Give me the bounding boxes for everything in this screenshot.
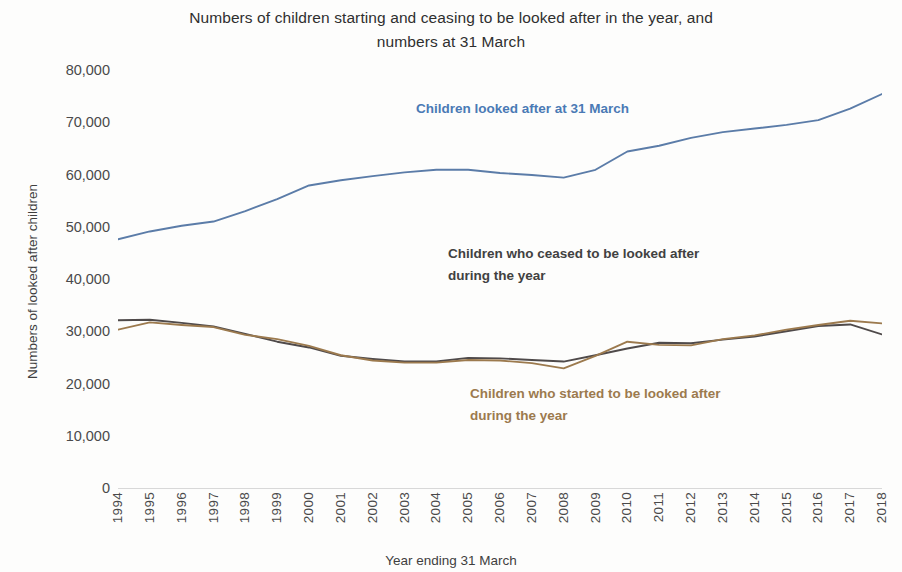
x-axis-tick-label: 2014 [747,492,763,523]
x-axis-baseline [118,488,882,489]
y-axis-tick-label: 40,000 [66,271,110,287]
x-axis-tick-label: 2015 [779,492,795,523]
x-axis-tick-label: 2016 [810,492,826,523]
x-axis-tick-label: 2006 [492,492,508,523]
x-axis-tick-label: 1995 [142,492,158,523]
x-axis-tick-label: 2011 [651,492,667,522]
x-axis-tick-label: 1998 [237,492,253,523]
x-axis-title: Year ending 31 March [0,553,902,568]
y-axis-title: Numbers of looked after children [25,162,40,402]
annotation-children-started: Children who started to be looked after … [470,383,721,427]
chart-title-line-1: Numbers of children starting and ceasing… [189,9,713,26]
x-axis-tick-label: 2003 [397,492,413,523]
x-axis-tick-label: 2012 [683,492,699,523]
annotation-children-ceased: Children who ceased to be looked after d… [448,243,699,287]
x-axis-tick-label: 2010 [619,492,635,523]
y-axis-tick-label: 70,000 [66,114,110,130]
y-axis-tick-label: 30,000 [66,323,110,339]
y-axis-tick-label: 20,000 [66,376,110,392]
annotation-children-looked-after: Children looked after at 31 March [416,98,629,120]
chart-title-line-2: numbers at 31 March [0,30,902,54]
series-line [118,320,882,362]
x-axis-tick-label: 2009 [588,492,604,523]
x-axis-tick-labels: 1994199519961997199819992000200120022003… [118,492,882,554]
x-axis-tick-label: 2002 [365,492,381,523]
y-axis-tick-label: 10,000 [66,428,110,444]
y-axis-tick-label: 50,000 [66,219,110,235]
series-line [118,321,882,369]
x-axis-tick-label: 2007 [524,492,540,523]
x-axis-tick-label: 2005 [460,492,476,523]
x-axis-tick-label: 2000 [301,492,317,523]
x-axis-tick-label: 2018 [874,492,890,523]
y-axis-tick-label: 80,000 [66,62,110,78]
x-axis-tick-label: 2001 [333,492,349,523]
x-axis-tick-label: 1999 [269,492,285,523]
x-axis-tick-label: 1997 [206,492,222,523]
x-axis-tick-label: 2013 [715,492,731,523]
x-axis-tick-label: 1994 [110,492,126,523]
chart-title: Numbers of children starting and ceasing… [0,6,902,54]
x-axis-tick-label: 2008 [556,492,572,523]
x-axis-tick-label: 2004 [428,492,444,523]
x-axis-tick-label: 1996 [174,492,190,523]
y-axis-tick-label: 60,000 [66,167,110,183]
x-axis-tick-label: 2017 [842,492,858,523]
y-axis-tick-label: 0 [102,480,110,496]
